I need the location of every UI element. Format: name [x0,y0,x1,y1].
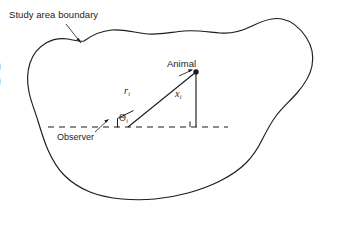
sighting-distance-label: ri [124,86,130,97]
study-area-boundary-path [28,18,313,199]
observer-leader-arrowhead [104,119,109,123]
sighting-angle-symbol: Θ [119,113,126,123]
figure-container: Study area boundary Animal Observer ri x… [0,0,340,228]
animal-point-marker [193,69,198,74]
sighting-angle-label: Θi [119,114,128,125]
perpendicular-distance-subscript: i [180,93,182,100]
sighting-angle-subscript: i [126,118,128,124]
perpendicular-distance-symbol: x [175,88,179,99]
cropped-edge-glyph-bottom: ) [0,73,1,89]
study-area-boundary-label: Study area boundary [9,10,98,20]
animal-label: Animal [167,59,196,69]
observer-label: Observer [57,133,94,142]
perpendicular-distance-label: xi [175,89,181,100]
sighting-distance-subscript: i [128,90,130,97]
diagram-canvas [0,0,340,228]
sighting-distance-line [128,72,196,127]
